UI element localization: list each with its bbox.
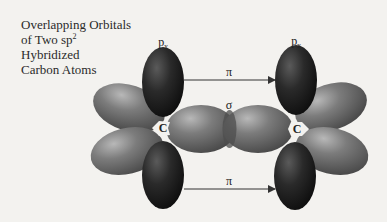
sigma-bond-orbitals xyxy=(166,105,293,153)
py-sub: y xyxy=(297,41,301,49)
left-p-upper-lobe xyxy=(142,47,184,117)
label-carbon-left: C xyxy=(159,121,168,136)
label-sigma: σ xyxy=(226,99,232,111)
label-pi-top: π xyxy=(226,66,232,78)
right-p-lower-lobe xyxy=(274,142,316,210)
label-pi-bottom: π xyxy=(226,175,232,187)
sigma-overlap xyxy=(223,110,237,148)
title-line-1: Overlapping Orbitals xyxy=(21,17,131,32)
diagram-title: Overlapping Orbitals of Two sp2 Hybridiz… xyxy=(21,17,131,77)
label-right-py: py xyxy=(291,35,301,47)
title-line-3: Hybridized xyxy=(21,47,79,62)
right-p-upper-lobe xyxy=(275,45,317,115)
label-left-py: py xyxy=(158,36,168,48)
py-sub: y xyxy=(164,42,168,50)
title-superscript: 2 xyxy=(73,32,77,41)
orbital-diagram: Overlapping Orbitals of Two sp2 Hybridiz… xyxy=(0,0,387,222)
title-line-2: of Two sp xyxy=(21,32,73,47)
title-line-4: Carbon Atoms xyxy=(21,62,96,77)
left-p-lower-lobe xyxy=(142,141,184,209)
label-carbon-right: C xyxy=(293,122,302,137)
